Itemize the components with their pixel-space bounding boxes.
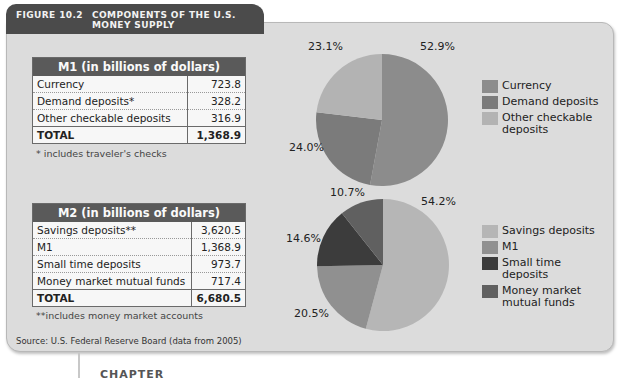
legend-item: Small time deposits: [482, 257, 582, 281]
next-section-heading: CHAPTER TOPICS: [100, 368, 220, 378]
total-row: TOTAL 1,368.9: [33, 127, 246, 144]
m1-table: M1 (in billions of dollars) Currency 723…: [32, 57, 246, 144]
row-value: 3,620.5: [191, 222, 245, 239]
row-label: Other checkable deposits: [33, 110, 188, 127]
legend-swatch: [482, 225, 498, 238]
legend-item: Money market mutual funds: [482, 285, 602, 309]
legend-label: Savings deposits: [502, 224, 595, 237]
m2-label-small-time: 14.6%: [286, 232, 321, 245]
table-row: Currency 723.8: [33, 76, 246, 93]
legend-label: Small time deposits: [502, 256, 561, 281]
m2-footnote: **includes money market accounts: [36, 310, 203, 321]
total-value: 6,680.5: [191, 290, 245, 307]
m1-legend: Currency Demand deposits Other checkable…: [482, 80, 620, 140]
legend-label: Demand deposits: [502, 95, 598, 108]
legend-swatch: [482, 112, 498, 125]
m1-footnote: * includes traveler's checks: [36, 148, 167, 159]
figure-number: FIGURE 10.2: [16, 10, 83, 20]
legend-label: Other checkable deposits: [502, 111, 592, 136]
m1-label-demand: 24.0%: [289, 141, 324, 154]
pie-slice: [316, 54, 382, 120]
legend-swatch: [482, 257, 498, 270]
m2-label-money-market: 10.7%: [330, 186, 365, 199]
m2-table: M2 (in billions of dollars) Savings depo…: [32, 203, 246, 307]
row-value: 723.8: [187, 76, 245, 93]
total-label: TOTAL: [33, 127, 188, 144]
table-row: M1 1,368.9: [33, 239, 246, 256]
legend-item: Other checkable deposits: [482, 112, 620, 136]
table-row: Other checkable deposits 316.9: [33, 110, 246, 127]
source-note: Source: U.S. Federal Reserve Board (data…: [16, 336, 242, 346]
row-label: M1: [33, 239, 192, 256]
m2-legend: Savings deposits M1 Small time deposits …: [482, 225, 602, 313]
table-row: Savings deposits** 3,620.5: [33, 222, 246, 239]
page-margin-rule: [78, 352, 80, 378]
m1-label-other: 23.1%: [308, 40, 343, 53]
total-label: TOTAL: [33, 290, 192, 307]
row-value: 316.9: [187, 110, 245, 127]
legend-swatch: [482, 241, 498, 254]
legend-item: Savings deposits: [482, 225, 602, 237]
row-value: 973.7: [191, 256, 245, 273]
legend-swatch: [482, 96, 498, 109]
figure-header: FIGURE 10.2 COMPONENTS OF THE U.S. MONEY…: [6, 4, 264, 34]
legend-item: M1: [482, 241, 602, 253]
table-row: Demand deposits* 328.2: [33, 93, 246, 110]
m2-label-m1: 20.5%: [294, 307, 329, 320]
m2-pie-chart: [315, 197, 451, 333]
legend-label: Currency: [502, 79, 552, 92]
m2-label-savings: 54.2%: [421, 195, 456, 208]
m1-table-header: M1 (in billions of dollars): [33, 58, 246, 77]
m1-label-currency: 52.9%: [420, 40, 455, 53]
table-row: Money market mutual funds 717.4: [33, 273, 246, 290]
row-label: Currency: [33, 76, 188, 93]
row-value: 717.4: [191, 273, 245, 290]
total-row: TOTAL 6,680.5: [33, 290, 246, 307]
legend-swatch: [482, 80, 498, 93]
row-value: 1,368.9: [191, 239, 245, 256]
table-row: Small time deposits 973.7: [33, 256, 246, 273]
total-value: 1,368.9: [187, 127, 245, 144]
row-value: 328.2: [187, 93, 245, 110]
row-label: Money market mutual funds: [33, 273, 192, 290]
legend-label: Money market mutual funds: [502, 284, 581, 309]
m1-pie-chart: [314, 52, 450, 188]
row-label: Demand deposits*: [33, 93, 188, 110]
figure-title: COMPONENTS OF THE U.S. MONEY SUPPLY: [92, 10, 262, 30]
legend-label: M1: [502, 240, 519, 253]
m2-table-header: M2 (in billions of dollars): [33, 204, 246, 223]
legend-item: Currency: [482, 80, 620, 92]
legend-swatch: [482, 285, 498, 298]
legend-item: Demand deposits: [482, 96, 620, 108]
row-label: Small time deposits: [33, 256, 192, 273]
row-label: Savings deposits**: [33, 222, 192, 239]
